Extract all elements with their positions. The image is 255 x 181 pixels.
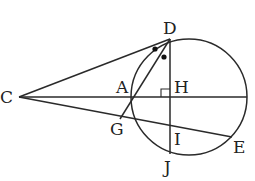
label-D: D <box>163 18 177 38</box>
label-I: I <box>174 129 181 149</box>
label-G: G <box>110 119 124 139</box>
label-A: A <box>115 77 129 97</box>
right-angle-mark <box>161 89 170 97</box>
label-J: J <box>162 157 171 177</box>
geometry-figure: C D A H G I J E <box>0 0 255 181</box>
angle-dot-2 <box>161 54 166 59</box>
segment-CE <box>19 97 232 137</box>
segment-CD <box>19 39 170 97</box>
angle-dot-1 <box>152 46 157 51</box>
label-H: H <box>174 77 189 97</box>
label-C: C <box>0 87 13 107</box>
label-E: E <box>233 137 245 157</box>
